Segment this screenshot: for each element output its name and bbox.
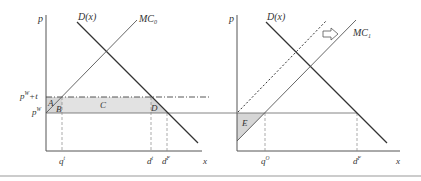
tariff-price-label: pW+t — [19, 90, 38, 101]
tariff-diagram: p D(x) MC0 pW+t pW A B C D qt dt dF x p … — [0, 0, 421, 181]
original-mc-dotted — [238, 20, 327, 112]
d-free-tick: dF — [353, 155, 362, 166]
area-d-label: D — [150, 103, 158, 113]
area-a-label: A — [47, 98, 54, 108]
area-e-label: E — [241, 118, 248, 128]
area-c-label: C — [100, 100, 107, 110]
right-panel: p D(x) MC1 E qO dF x — [228, 11, 400, 166]
y-axis-label: p — [37, 13, 43, 24]
demand-curve — [266, 22, 387, 143]
q-open-tick: qO — [261, 155, 270, 166]
d-free-tick: dF — [162, 155, 171, 166]
area-c-shade — [62, 97, 151, 113]
demand-curve — [77, 22, 198, 143]
x-axis-label: x — [202, 156, 207, 166]
demand-label: D(x) — [77, 11, 97, 23]
area-b-label: B — [56, 104, 62, 114]
left-panel: p D(x) MC0 pW+t pW A B C D qt dt dF x — [19, 11, 237, 166]
x-axis-label: x — [395, 156, 400, 166]
demand-label: D(x) — [266, 11, 286, 23]
q-tariff-tick: qt — [59, 155, 66, 166]
y-axis-label: p — [228, 13, 234, 24]
mc1-label: MC1 — [352, 27, 371, 39]
mc1-curve — [237, 20, 356, 141]
world-price-label: pW — [31, 106, 42, 117]
right-arrow-icon — [323, 28, 338, 40]
d-tariff-tick: dt — [147, 155, 154, 166]
mc0-label: MC0 — [138, 13, 157, 25]
